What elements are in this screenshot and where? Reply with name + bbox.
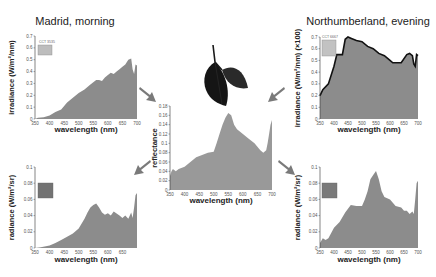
title-madrid: Madrid, morning [35,15,114,27]
y-tick-label: 0.7 [311,35,318,40]
y-tick-label: 0.06 [24,197,33,202]
swatch-north-irradiance: CCT 6667 [322,35,338,56]
y-axis-label: reflectance [150,128,159,168]
y-tick-label: 0.08 [159,150,168,155]
y-tick-label: 0.14 [159,122,168,127]
y-tick-label: 0.08 [24,181,33,186]
y-tick-label: 0.3 [311,81,318,86]
title-northumberland: Northumberland, evening [306,15,430,27]
figure-canvas: Madrid, morning Northumberland, evening … [0,0,436,277]
y-tick-label: 0.4 [311,70,318,75]
y-tick-label: 0.04 [24,213,33,218]
y-tick-label: 0.2 [311,93,318,98]
x-tick-label: 350 [31,250,39,255]
y-tick-label: 0.1 [311,105,318,110]
x-tick-label: 700 [133,121,141,126]
chart-madrid-irradiance: 35040045050055060065070000.10.20.30.40.5… [7,34,141,135]
y-tick-label: 0.3 [26,81,33,86]
y-tick-label: 0.6 [311,46,318,51]
y-tick-label: 0.02 [24,229,33,234]
x-tick-label: 700 [414,250,422,255]
x-tick-label: 650 [254,192,262,197]
x-axis-label: wavelength (nm) [336,255,400,264]
y-tick-label: 0.04 [309,213,318,218]
swatch-madrid-irradiance: CCT 3535 [38,40,55,55]
x-tick-label: 400 [46,250,54,255]
y-axis-label: irradiance (W/m²/nm) [7,40,16,115]
y-tick-label: 0.04 [159,169,168,174]
cct-label-north: CCT 6667 [322,35,338,39]
y-tick-label: 0.5 [311,58,318,63]
y-axis-label: irradiance (W/m²/nm) (×100) [293,28,302,127]
y-tick-label: 0.7 [26,34,33,39]
y-tick-label: 0.1 [311,165,318,170]
x-tick-label: 350 [316,121,324,126]
arrow-madrid-to-leaf-icon [139,87,156,102]
area-series [320,171,418,248]
swatch-north-radiance [322,183,337,198]
area-series [35,59,137,120]
chart-northumberland-radiance: 35040045050055060065070000.020.040.060.0… [293,165,422,265]
y-tick-label: 0.2 [26,93,33,98]
x-tick-label: 350 [166,192,174,197]
y-tick-label: 0.02 [159,178,168,183]
y-tick-label: 0.02 [309,229,318,234]
y-tick-label: 0.06 [309,197,318,202]
x-tick-label: 350 [316,250,324,255]
x-tick-label: 400 [181,192,189,197]
leaf-icon [204,45,248,106]
chart-northumberland-irradiance: 35040045050055060065070000.10.20.30.40.5… [293,28,422,134]
y-tick-label: 0.08 [309,181,318,186]
y-tick-label: 0.12 [159,132,168,137]
x-tick-label: 700 [268,192,276,197]
chart-leaf-reflectance: 35040045050055060065070000.020.040.060.0… [150,104,276,206]
chart-madrid-radiance: 35040045050055060065000.020.040.060.080.… [7,165,137,265]
x-tick-label: 700 [414,121,422,126]
area-series [170,113,272,190]
y-tick-label: 0.4 [26,69,33,74]
x-axis-label: wavelength (nm) [53,125,117,134]
x-tick-label: 350 [31,121,39,126]
x-tick-label: 650 [119,121,127,126]
arrow-leaf-to-north-radiance-icon [278,160,295,175]
y-axis-label: radiance (W/m²/sr) [293,174,302,240]
y-tick-label: 0.5 [26,57,33,62]
swatch-madrid-radiance [38,183,53,198]
arrow-leaf-to-madrid-radiance-icon [134,160,151,175]
x-axis-label: wavelength (nm) [188,196,252,205]
y-tick-label: 0.16 [159,113,168,118]
x-tick-label: 400 [46,121,54,126]
y-tick-label: 0.1 [26,105,33,110]
x-axis-label: wavelength (nm) [53,255,117,264]
y-tick-label: 0.18 [159,104,168,109]
y-axis-label: radiance (W/m²/sr) [7,174,16,240]
cct-label-madrid: CCT 3535 [39,40,55,44]
y-tick-label: 0.6 [26,45,33,50]
y-tick-label: 0.1 [161,141,168,146]
x-tick-label: 650 [400,250,408,255]
x-tick-label: 650 [400,121,408,126]
arrow-north-to-leaf-icon [268,87,285,102]
x-tick-label: 650 [119,250,127,255]
y-tick-label: 0.1 [26,165,33,170]
y-tick-label: 0.06 [159,160,168,165]
x-axis-label: wavelength (nm) [336,125,400,134]
area-series [35,193,137,248]
